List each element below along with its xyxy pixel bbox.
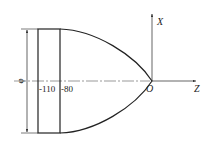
z-axis-label: Z [194,83,200,94]
z-mark-minus-80: -80 [61,84,73,94]
z-mark-minus-110: -110 [39,84,56,94]
part-profile-diagram: φ -110 -80 O Z X [0,0,213,146]
diameter-label: φ [15,78,25,83]
x-axis-label: X [156,16,164,27]
origin-label: O [146,83,153,94]
